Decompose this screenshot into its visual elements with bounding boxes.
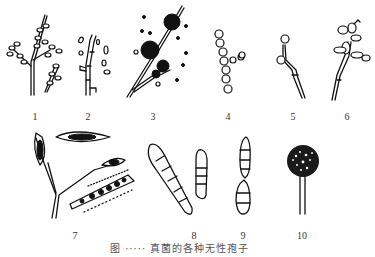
septate-spindle-conidia-icon	[236, 137, 250, 214]
panel-label-7: 7	[73, 231, 78, 241]
blastospore-cluster-icon	[127, 6, 188, 97]
sporangium-icon	[287, 145, 319, 214]
panel-label-6: 6	[345, 112, 350, 122]
panel-label-4: 4	[226, 112, 231, 122]
panel-label-9: 9	[241, 231, 246, 241]
panel-label-2: 2	[86, 112, 91, 122]
panel-label-3: 3	[151, 112, 156, 122]
spore-chain-icon	[215, 30, 245, 93]
arthrospore-hypha-icon	[78, 35, 110, 95]
chlamydospore-icon	[277, 35, 305, 98]
panel-label-5: 5	[291, 112, 296, 122]
fusiform-macroconidia-icon	[35, 132, 134, 218]
panel-label-8: 8	[192, 231, 197, 241]
septate-clavate-conidia-icon	[148, 144, 207, 214]
figure-caption: 图 ····· 真菌的各种无性孢子	[110, 244, 249, 254]
petal-conidia-icon	[332, 20, 370, 100]
panel-label-1: 1	[33, 112, 38, 122]
branched-conidiophore-icon	[7, 15, 62, 95]
panel-label-10: 10	[297, 231, 307, 241]
